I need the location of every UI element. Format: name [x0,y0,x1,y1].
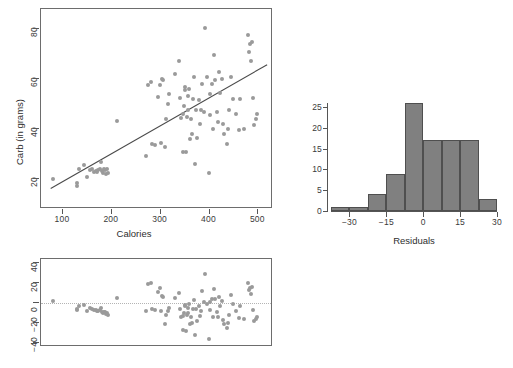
scatter-data-point [202,110,206,114]
histogram-x-tick: 0 [421,217,426,227]
scatter-data-point [238,97,242,101]
histogram-x-tick: −15 [379,217,394,227]
residual-data-point [149,281,153,285]
residual-data-point [226,321,230,325]
histogram-y-tickmark [323,169,328,170]
scatter-x-axis-title: Calories [117,228,152,239]
residual-data-point [193,333,197,337]
scatter-x-tick: 400 [201,214,216,224]
residual-data-point [208,308,212,312]
residual-data-point [220,299,224,303]
residual-data-point [249,292,253,296]
scatter-data-point [187,87,191,91]
residual-data-point [153,308,157,312]
residual-data-point [167,306,171,310]
histogram-x-tickmark [349,212,350,217]
scatter-data-point [163,145,167,149]
histogram-plot-area [331,103,497,211]
residual-data-point [203,272,207,276]
residual-data-point [187,302,191,306]
scatter-data-point [217,70,221,74]
residual-data-point [190,321,194,325]
residual-data-point [156,290,160,294]
scatter-data-point [205,75,209,79]
residual-data-point [234,309,238,313]
scatter-data-point [227,108,231,112]
residual-data-point [184,329,188,333]
histogram-bar [423,140,441,211]
histogram-y-tickmark [323,190,328,191]
histogram-x-tickmark [386,212,387,217]
residual-data-point [164,313,168,317]
scatter-x-tick: 100 [55,214,70,224]
scatter-x-tickmark [111,209,112,214]
histogram-panel: 0510152025 −30−1501530 Residuals [295,95,513,260]
residual-data-point [199,309,203,313]
scatter-data-point [237,128,241,132]
scatter-data-point [207,171,211,175]
histogram-x-tickmark [423,212,424,217]
residual-data-point [197,304,201,308]
scatter-x-tickmark [257,209,258,214]
regression-line [41,9,271,207]
scatter-data-point [246,33,250,37]
residual-y-tick: 0 [29,307,39,312]
residual-data-point [215,310,219,314]
residual-plot-panel: −40−2002040 [0,248,295,368]
scatter-data-point [158,83,162,87]
scatter-data-point [203,26,207,30]
residual-y-tickmark [33,282,39,283]
residual-data-point [177,291,181,295]
histogram-y-tick: 20 [312,123,322,133]
histogram-y-tickmark [323,107,328,108]
residual-data-point [229,293,233,297]
residual-data-point [198,314,202,318]
residual-data-point [237,316,241,320]
residual-data-point [250,285,254,289]
scatter-data-point [115,119,119,123]
residual-data-point [106,313,110,317]
residual-data-point [189,315,193,319]
scatter-data-point [186,108,190,112]
scatter-data-point [99,160,103,164]
scatter-data-point [51,177,55,181]
scatter-data-point [192,75,196,79]
histogram-x-tickmark [460,212,461,217]
scatter-data-point [186,94,190,98]
residual-data-point [195,319,199,323]
scatter-data-point [210,82,214,86]
scatter-y-tickmark [33,78,39,79]
residual-y-tick: 20 [29,282,39,292]
histogram-x-axis-title: Residuals [393,235,435,246]
scatter-data-point [179,116,183,120]
scatter-data-point [198,122,202,126]
scatter-x-tick: 200 [103,214,118,224]
scatter-data-point [194,108,198,112]
histogram-x-tick: −30 [342,217,357,227]
residual-data-point [242,317,246,321]
histogram-y-tick: 5 [317,185,322,195]
scatter-data-point [188,137,192,141]
scatter-data-point [159,141,163,145]
residual-data-point [144,309,148,313]
residual-data-point [231,302,235,306]
scatter-data-point [225,142,229,146]
histogram-y-tick: 15 [312,144,322,154]
histogram-y-tick: 10 [312,164,322,174]
histogram-bar [405,103,423,211]
residual-y-tickmark [33,342,39,343]
residual-y-tick: 40 [29,262,39,272]
residual-data-point [216,315,220,319]
residual-data-point [218,304,222,308]
histogram-bar [386,174,404,211]
scatter-data-point [161,78,165,82]
scatter-data-point [191,97,195,101]
residual-data-point [161,295,165,299]
histogram-y-tickmark [323,128,328,129]
histogram-bar [460,140,478,211]
scatter-data-point [197,98,201,102]
histogram-y-tick: 0 [317,206,322,216]
residual-plot-area [41,259,271,345]
residual-y-tickmark [33,302,39,303]
scatter-data-point [190,132,194,136]
